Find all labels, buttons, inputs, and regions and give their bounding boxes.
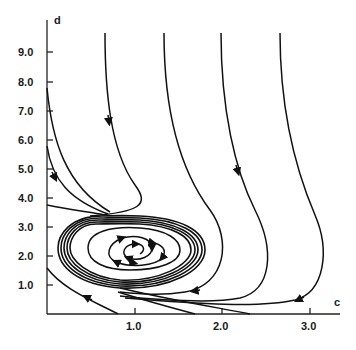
x-axis-label: c <box>334 296 340 308</box>
y-axis-label: d <box>54 14 61 26</box>
trajectory-top-2 <box>120 33 223 294</box>
trajectory-top-1 <box>90 33 141 216</box>
y-tick-label: 7.0 <box>18 105 33 117</box>
y-tick-label: 6.0 <box>18 134 33 146</box>
y-tick-label: 9.0 <box>18 46 33 58</box>
limit-cycle <box>58 216 205 289</box>
y-tick-label: 5.0 <box>18 163 33 175</box>
y-tick-label: 3.0 <box>18 221 33 233</box>
y-tick-label: 1.0 <box>18 279 33 291</box>
x-tick-label: 3.0 <box>301 320 316 332</box>
trajectory-left-1 <box>47 88 110 212</box>
inner-orbit-1 <box>88 228 180 270</box>
spiral <box>109 236 164 265</box>
trajectory-bottom-left <box>47 268 118 314</box>
y-tick-label: 4.0 <box>18 192 33 204</box>
trajectories <box>47 33 323 314</box>
phase-portrait-plot <box>0 0 356 350</box>
trajectory-top-4 <box>125 33 323 304</box>
y-tick-label: 2.0 <box>18 250 33 262</box>
y-tick-label: 8.0 <box>18 76 33 88</box>
x-tick-label: 2.0 <box>213 320 228 332</box>
x-tick-label: 1.0 <box>126 320 141 332</box>
